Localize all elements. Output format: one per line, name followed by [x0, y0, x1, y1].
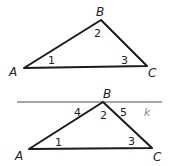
top-triangle-figure: A B C 1 2 3: [8, 5, 157, 80]
vertex-label-a: A: [8, 65, 17, 79]
angle-label-2: 2: [100, 109, 107, 122]
line-label-k: k: [144, 106, 151, 119]
vertex-label-b: B: [103, 87, 111, 101]
triangle-abc: [24, 20, 147, 68]
angle-label-1: 1: [48, 54, 55, 67]
angle-label-2: 2: [94, 27, 101, 40]
angle-label-5: 5: [120, 106, 127, 119]
angle-label-3: 3: [128, 135, 135, 148]
vertex-label-a: A: [14, 149, 23, 163]
geometry-diagram: A B C 1 2 3 A B C 1 2 3 4 5 k: [0, 0, 170, 166]
vertex-label-c: C: [153, 150, 162, 164]
angle-label-4: 4: [74, 106, 81, 119]
bottom-triangle-figure: A B C 1 2 3 4 5 k: [14, 87, 162, 164]
angle-label-1: 1: [55, 136, 62, 149]
vertex-label-c: C: [148, 66, 157, 80]
vertex-label-b: B: [96, 5, 104, 19]
angle-label-3: 3: [121, 54, 128, 67]
